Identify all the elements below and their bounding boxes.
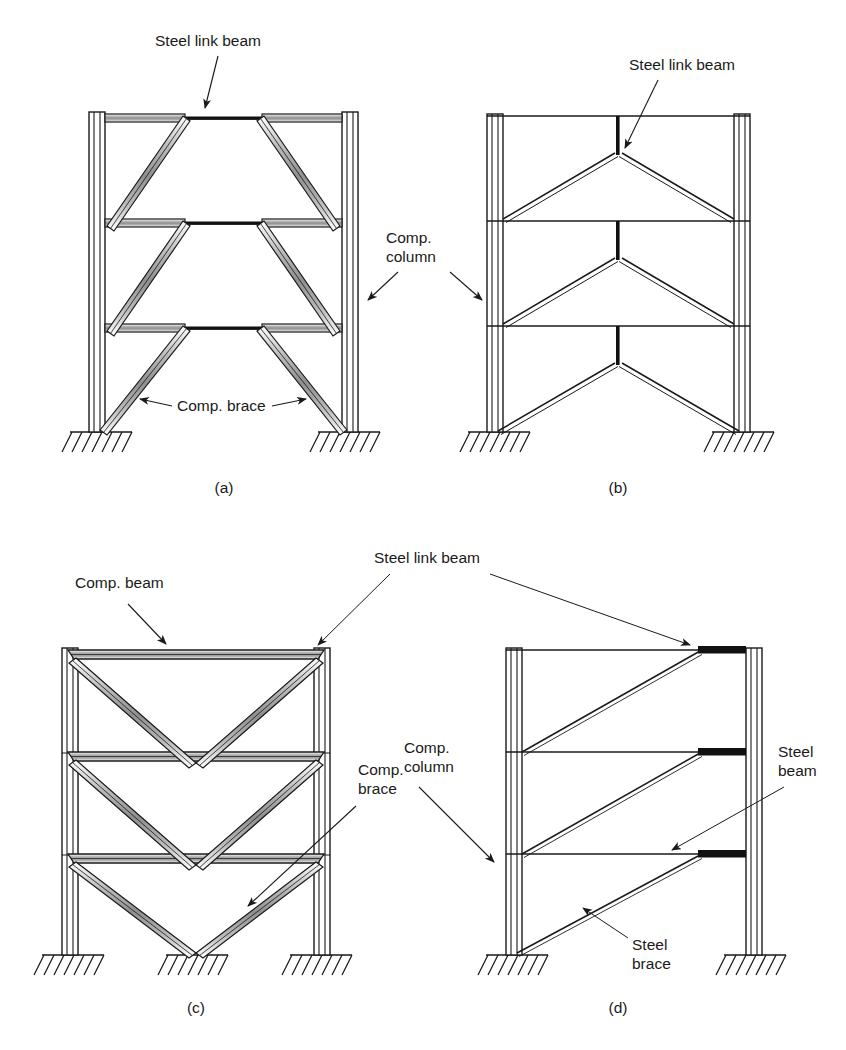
panel-a-column-left bbox=[89, 112, 105, 432]
panel-caption-d: (d) bbox=[609, 999, 628, 1016]
panel-b-column-left bbox=[487, 114, 503, 432]
structural-diagram-canvas: Steel link beam Comp. brace (a) bbox=[0, 0, 846, 1050]
panel-b-steel-link-beam-level1 bbox=[616, 116, 620, 155]
figure-background bbox=[0, 0, 846, 1050]
label-comp-brace-c-line2: brace bbox=[358, 780, 397, 797]
panel-b-column-right bbox=[734, 114, 750, 432]
panel-b-steel-link-beam-level3 bbox=[616, 326, 620, 365]
panel-d-column-right bbox=[746, 648, 762, 955]
label-steel-link-beam-b: Steel link beam bbox=[629, 56, 735, 73]
panel-d-column-left bbox=[506, 648, 522, 955]
label-steel-beam-d-line2: beam bbox=[778, 762, 817, 779]
panel-c-comp-beam-level1 bbox=[68, 650, 324, 659]
panel-a-column-right bbox=[342, 112, 358, 432]
panel-a-steel-link-beam-level3 bbox=[185, 327, 262, 330]
panel-c-comp-beam-level2 bbox=[68, 752, 324, 761]
label-steel-brace-d-line2: brace bbox=[632, 955, 671, 972]
panel-c-column-left bbox=[62, 648, 78, 955]
panel-caption-b: (b) bbox=[609, 479, 628, 496]
panel-a-steel-link-beam-level1 bbox=[185, 117, 262, 120]
label-comp-column-ab-line2: column bbox=[386, 248, 436, 265]
label-comp-brace-c-line1: Comp. bbox=[358, 761, 404, 778]
label-steel-link-beam-cd: Steel link beam bbox=[374, 549, 480, 566]
panel-b-steel-link-beam-level2 bbox=[616, 221, 620, 260]
panel-d-steel-link-beam-level3 bbox=[698, 850, 746, 858]
panel-caption-a: (a) bbox=[215, 479, 234, 496]
figure-root: Steel link beam Comp. brace (a) bbox=[0, 0, 846, 1050]
label-comp-column-ab-line1: Comp. bbox=[386, 229, 432, 246]
panel-c-column-right bbox=[314, 648, 330, 955]
panel-d-steel-link-beam-level1 bbox=[698, 646, 746, 654]
panel-d-steel-link-beam-level2 bbox=[698, 748, 746, 756]
panel-caption-c: (c) bbox=[187, 999, 205, 1016]
panel-c-comp-beam-level3 bbox=[68, 854, 324, 863]
label-comp-brace-a: Comp. brace bbox=[177, 397, 266, 414]
label-steel-beam-d-line1: Steel bbox=[778, 743, 813, 760]
label-comp-column-cd-line2: column bbox=[404, 758, 454, 775]
label-steel-link-beam-a: Steel link beam bbox=[155, 32, 261, 49]
label-steel-brace-d-line1: Steel bbox=[632, 936, 667, 953]
label-comp-beam-c: Comp. beam bbox=[75, 574, 164, 591]
panel-a-steel-link-beam-level2 bbox=[185, 222, 262, 225]
label-comp-column-cd-line1: Comp. bbox=[404, 739, 450, 756]
